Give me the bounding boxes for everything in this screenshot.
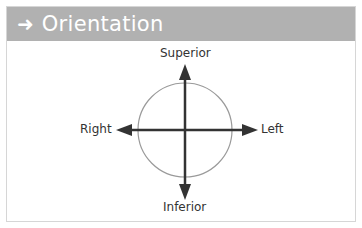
label-right: Right [80,122,112,136]
label-superior: Superior [160,46,211,60]
horizontal-axis-arrow [116,124,258,136]
label-inferior: Inferior [163,200,206,214]
orientation-diagram [0,0,362,228]
label-left: Left [261,122,284,136]
vertical-axis-arrow [179,64,191,200]
